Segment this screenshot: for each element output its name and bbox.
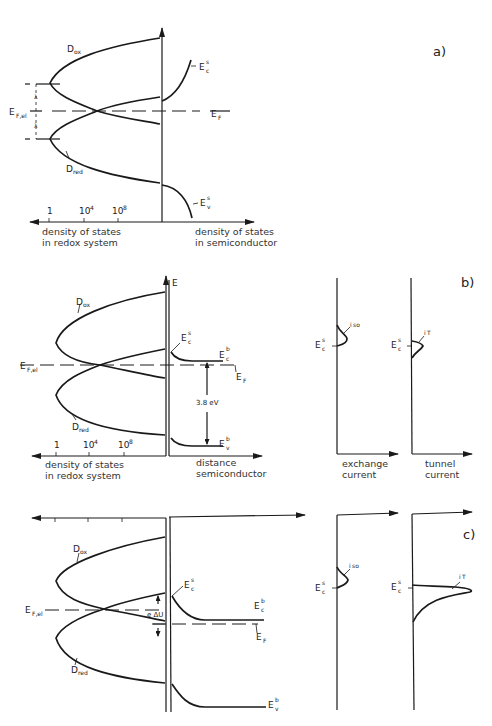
svg-text:b: b (226, 435, 230, 442)
svg-text:c: c (261, 606, 264, 613)
exchange-current-plot-b: i so E c s exchange current (315, 278, 398, 480)
svg-text:s: s (322, 579, 325, 586)
svg-text:s: s (398, 578, 401, 585)
caption-redox-dos-a-1: density of states (42, 226, 121, 237)
panel-b: b) E 1 10 4 10 8 E F,el E c s E c b E (20, 275, 474, 481)
ec-s-label-exchange-b: E (315, 340, 321, 350)
exchange-current-plot-c: i so E c s (315, 513, 398, 710)
caption-redox-dos-b-1: density of states (45, 459, 124, 470)
ef-label-b: E (236, 372, 242, 382)
ev-b-label-c: E (268, 700, 274, 710)
caption-semiconductor-b: semiconductor (196, 468, 267, 479)
svg-text:b: b (275, 696, 279, 703)
ec-band-c (172, 596, 264, 620)
ec-band-b (171, 352, 223, 361)
svg-text:red: red (78, 669, 88, 676)
svg-text:F,el: F,el (32, 610, 43, 617)
svg-text:b: b (226, 345, 230, 352)
ec-s-label-tunnel-c: E (391, 582, 397, 592)
ev-b-label-b: E (219, 439, 225, 449)
d-ox-label-a: D (67, 44, 74, 54)
svg-text:s: s (191, 576, 194, 583)
ec-b-label-b: E (219, 350, 225, 360)
ec-s-label-b: E (181, 333, 187, 343)
caption-redox-dos-a-2: in redox system (42, 237, 118, 248)
svg-text:4: 4 (90, 204, 94, 211)
svg-text:v: v (275, 705, 279, 712)
ef-label-a: E (211, 109, 217, 119)
ef-el-label-c: E (25, 605, 31, 615)
d-red-label-a: D (66, 164, 73, 174)
svg-text:8: 8 (123, 204, 127, 211)
i-t-label-c: i (459, 573, 461, 580)
ec-s-label-c: E (184, 580, 190, 590)
svg-text:4: 4 (94, 438, 98, 445)
svg-text:F,el: F,el (16, 112, 27, 119)
tick-10e4: 10 (79, 206, 91, 216)
svg-text:F: F (263, 637, 267, 644)
caption-exchange-b-1: exchange (342, 458, 388, 469)
ec-surface-curve-a (162, 60, 191, 101)
ef-el-label-b: E (20, 361, 26, 371)
svg-text:ox: ox (80, 548, 87, 555)
ev-s-label-a: E (200, 198, 206, 208)
caption-redox-dos-b-2: in redox system (45, 470, 121, 481)
energy-diagram: a) 1 10 4 10 8 λ λ E F,el E (0, 0, 492, 726)
panel-a: a) 1 10 4 10 8 λ λ E F,el E (9, 28, 446, 248)
caption-tunnel-b-2: current (425, 469, 460, 480)
tick-10e4-b: 10 (83, 440, 95, 450)
svg-text:v: v (226, 444, 230, 451)
panel-c: c) E F,el E F e ΔU E c s E c (25, 512, 475, 712)
svg-text:c: c (188, 338, 191, 345)
svg-text:red: red (79, 426, 89, 433)
svg-text:c: c (206, 67, 209, 74)
d-ox-label-c: D (73, 544, 80, 554)
svg-text:so: so (353, 321, 360, 328)
svg-text:F: F (218, 114, 222, 121)
svg-text:c: c (398, 345, 401, 352)
svg-text:c: c (191, 585, 194, 592)
svg-text:F: F (243, 377, 247, 384)
tick-10e8: 10 (112, 206, 124, 216)
svg-text:c: c (322, 588, 325, 595)
tick-10e8-b: 10 (118, 440, 130, 450)
lambda-bottom: λ (34, 122, 38, 129)
tick-1-b: 1 (54, 440, 60, 450)
ev-surface-curve-a (162, 185, 192, 218)
svg-text:s: s (322, 336, 325, 343)
ec-s-label-tunnel-b: E (391, 340, 397, 350)
ec-s-label-exchange-c: E (315, 583, 321, 593)
i-so-label-b: i (350, 321, 352, 328)
caption-exchange-b-2: current (342, 469, 377, 480)
caption-tunnel-b-1: tunnel (425, 458, 455, 469)
exchange-current-curve-b (337, 325, 347, 346)
caption-distance-b: distance (196, 457, 236, 468)
panel-c-label: c) (463, 527, 475, 542)
exchange-current-curve-c (337, 567, 348, 588)
lambda-top: λ (34, 93, 38, 100)
svg-text:c: c (226, 355, 229, 362)
tunnel-current-curve-b (412, 341, 423, 358)
d-ox-label-b: D (76, 297, 83, 307)
svg-text:T: T (426, 329, 431, 336)
svg-text:s: s (398, 336, 401, 343)
axis-e-label-b: E (172, 278, 178, 288)
ev-band-c (172, 684, 266, 707)
tunnel-current-plot-b: i T E c s tunnel current (391, 278, 472, 480)
ec-s-label-a: E (199, 62, 205, 72)
svg-text:s: s (207, 194, 210, 201)
svg-text:c: c (322, 345, 325, 352)
ec-b-label-c: E (254, 601, 260, 611)
svg-text:8: 8 (129, 438, 133, 445)
svg-text:ox: ox (74, 48, 81, 55)
svg-text:s: s (206, 58, 209, 65)
i-so-label-c: i (349, 562, 351, 569)
d-red-label-c: D (71, 665, 78, 675)
tick-1: 1 (47, 206, 53, 216)
svg-text:F,el: F,el (27, 366, 38, 373)
svg-text:T: T (461, 573, 466, 580)
panel-a-label: a) (433, 44, 446, 59)
tunnel-current-plot-c: i T E c s (391, 512, 472, 710)
svg-text:ox: ox (83, 301, 90, 308)
svg-text:v: v (207, 203, 211, 210)
